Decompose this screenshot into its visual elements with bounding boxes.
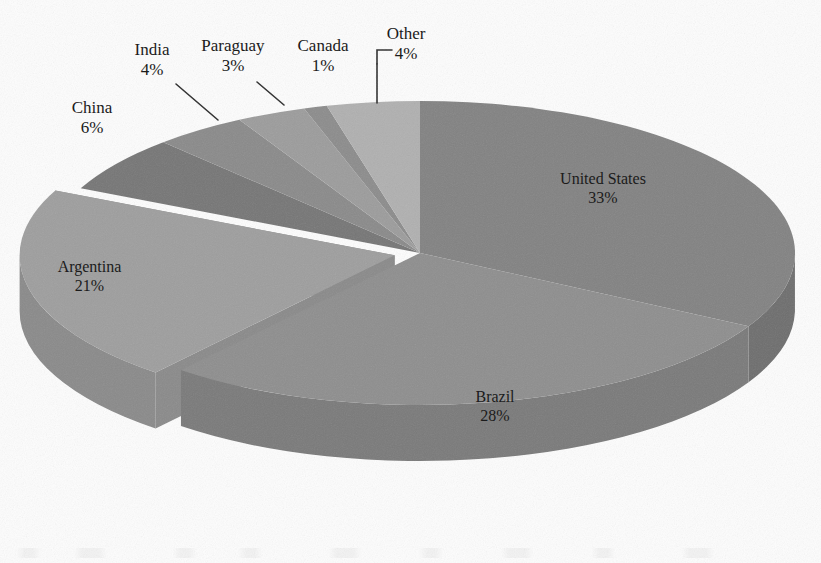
slice-label-united-states-percent: 33% bbox=[528, 189, 678, 208]
slice-label-canada-name: Canada bbox=[278, 36, 368, 56]
slice-label-china: China 6% bbox=[48, 98, 136, 138]
slice-label-brazil-percent: 28% bbox=[440, 407, 550, 426]
slice-label-other: Other 4% bbox=[367, 24, 445, 64]
slice-label-other-percent: 4% bbox=[367, 44, 445, 64]
slice-label-argentina-name: Argentina bbox=[22, 258, 157, 277]
slice-label-canada-percent: 1% bbox=[278, 56, 368, 76]
slice-label-india-name: India bbox=[117, 40, 187, 60]
slice-label-other-name: Other bbox=[367, 24, 445, 44]
slice-label-paraguay-name: Paraguay bbox=[183, 36, 283, 56]
slice-label-china-percent: 6% bbox=[48, 118, 136, 138]
slice-label-argentina: Argentina 21% bbox=[22, 258, 157, 296]
chart-canvas: United States 33% Brazil 28% Argentina 2… bbox=[0, 0, 821, 563]
slice-label-united-states-name: United States bbox=[528, 170, 678, 189]
slice-label-canada: Canada 1% bbox=[278, 36, 368, 76]
slice-label-paraguay: Paraguay 3% bbox=[183, 36, 283, 76]
slice-label-india-percent: 4% bbox=[117, 60, 187, 80]
slice-label-united-states: United States 33% bbox=[528, 170, 678, 208]
slice-label-argentina-percent: 21% bbox=[22, 277, 157, 296]
slice-label-china-name: China bbox=[48, 98, 136, 118]
slice-label-brazil: Brazil 28% bbox=[440, 388, 550, 426]
pie-chart: United States 33% Brazil 28% Argentina 2… bbox=[0, 0, 821, 563]
slice-label-india: India 4% bbox=[117, 40, 187, 80]
slice-label-brazil-name: Brazil bbox=[440, 388, 550, 407]
slice-label-paraguay-percent: 3% bbox=[183, 56, 283, 76]
